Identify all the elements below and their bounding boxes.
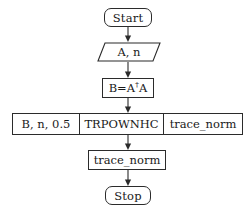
flowchart-canvas: Start A, n B=A†A B, xyxy=(0,0,251,214)
node-result-label: trace_norm xyxy=(94,153,161,167)
subroutine-name-cell[interactable]: TRPOWNHC xyxy=(79,114,164,134)
subroutine-outputs-label: trace_norm xyxy=(170,117,237,131)
node-start-label: Start xyxy=(113,11,143,25)
connector-compute-to-subroutine xyxy=(122,98,134,113)
subroutine-inputs-cell[interactable]: B, n, 0.5 xyxy=(13,114,79,134)
node-result[interactable]: trace_norm xyxy=(88,150,166,170)
node-subroutine-row[interactable]: B, n, 0.5 TRPOWNHC trace_norm xyxy=(12,113,243,135)
connector-start-to-input xyxy=(122,27,134,42)
node-compute-b[interactable]: B=A†A xyxy=(102,78,154,98)
node-compute-b-label: B=A†A xyxy=(109,81,148,95)
connector-subroutine-to-result xyxy=(122,135,134,150)
subroutine-inputs-label: B, n, 0.5 xyxy=(22,117,71,131)
node-start[interactable]: Start xyxy=(104,8,152,27)
connector-result-to-stop xyxy=(122,170,134,186)
node-stop-label: Stop xyxy=(114,189,142,203)
subroutine-outputs-cell[interactable]: trace_norm xyxy=(164,114,242,134)
node-input-label: A, n xyxy=(97,42,161,62)
compute-b-prefix: B=A xyxy=(109,81,135,95)
node-stop[interactable]: Stop xyxy=(105,186,151,205)
compute-b-suffix: A xyxy=(139,81,147,95)
subroutine-name-label: TRPOWNHC xyxy=(84,117,158,131)
connector-input-to-compute xyxy=(122,62,134,78)
node-input[interactable]: A, n xyxy=(97,42,161,62)
